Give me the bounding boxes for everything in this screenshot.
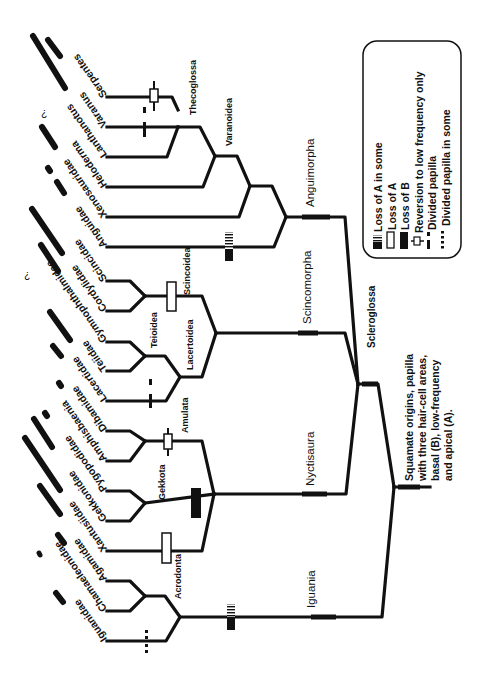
legend-divided-papilla-icon [427,232,430,249]
clade-label-varanoidea: Varanoidea [224,97,234,146]
loss-b-marker-icon [191,488,201,518]
clade-label-iguania: Iguania [305,570,317,608]
clade-label-anguimorpha: Anguimorpha [304,138,316,207]
legend-item-label: Loss of B [399,182,411,230]
legend-item-label: Loss of A in some [372,142,384,232]
legend-item-label: Divided papilla [426,156,438,230]
legend-solid-bar-icon [400,232,408,249]
loss-a-some-marker-dark [227,617,235,630]
reversion-marker-icon [150,81,158,111]
svg-text:and apical (A).: and apical (A). [442,409,454,481]
bar-heloderma-icon [42,127,55,147]
root-note: Squamate origins, papilla with three hai… [403,354,454,482]
bar-serpentes-icon [48,40,60,56]
divided-papilla-marker-icon [143,107,146,137]
bar-teiidae-icon [53,346,61,356]
legend-item-label: Loss of A [386,182,398,230]
papilla-length-bars: ? ? [24,36,70,602]
clade-label-amulata: Amulata [180,396,190,433]
legend-item-label: Reversion to low frequency only [413,71,425,233]
clade-label-nyctisaura: Nyctisaura [304,431,316,486]
bar-lacertidae-icon [59,383,61,386]
loss-a-marker-icon [162,533,171,563]
clade-label-acrodonta: Acrodonta [173,553,183,599]
clade-label-thecoglossa: Thecoglossa [188,59,198,115]
phylogeny-figure: ? ? Serpentes Varanus Lanthanotus Helode… [0,0,486,684]
loss-a-marker-icon [167,282,176,311]
taxon-label: Serpentes [70,52,109,101]
bar-amphisbaenia-icon [34,419,52,447]
bar-chamaeleonidae-icon [56,593,63,602]
svg-text:with three hair-cell areas,: with three hair-cell areas, [416,355,428,482]
legend-item-label: Divided papilla in some [440,109,452,226]
bar-xenosauridae-icon [48,168,50,171]
legend: Loss of A in some Loss of A Loss of B Re… [363,41,461,258]
clade-label-scleroglossa: Scleroglossa [366,285,377,348]
reversion-marker-icon [164,428,172,456]
bar-pygopodidae-icon [25,438,60,490]
clade-label-scincoidea: Scincoidea [182,246,192,295]
loss-a-some-marker-dark [225,249,233,261]
bar-gymnophthalmidae-icon [50,312,70,340]
divided-papilla-marker-icon [149,379,152,408]
legend-open-bar-icon [387,232,394,248]
question-mark-gymnophthalmidae: ? [24,270,30,281]
clade-label-lacertoidea: Lacertoidea [185,318,195,370]
bar-agamidae-icon [39,553,40,555]
svg-text:basal (B), low-frequency: basal (B), low-frequency [429,359,441,481]
clade-label-gekkota: Gekkota [157,463,167,500]
bar-dibamidae-icon [45,413,47,416]
bar-anguidae-icon [57,182,64,193]
svg-text:Squamate origins, papilla: Squamate origins, papilla [403,354,415,481]
clade-label-teioidea: Teioidea [149,311,159,348]
bar-scincidae-icon [32,209,62,253]
clade-thick-segments [298,217,420,617]
question-mark-lanthanotus: ? [41,108,47,119]
clade-label-scincomorpha: Scincomorpha [301,250,313,324]
